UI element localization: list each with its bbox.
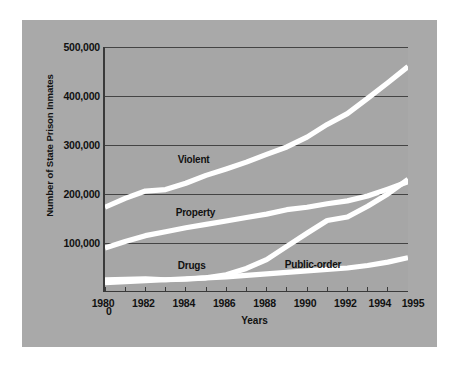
x-axis-title: Years — [103, 315, 406, 326]
y-tick-label: 500,000 — [63, 41, 100, 53]
series-label-violent: Violent — [178, 154, 210, 165]
x-tick-label: 1984 — [173, 297, 196, 309]
x-tick-label: 1994 — [369, 297, 392, 309]
x-tick-label: 1990 — [294, 297, 317, 309]
x-tick-label: 1988 — [253, 297, 276, 309]
gridlines — [105, 47, 408, 292]
series-line-public-order — [105, 258, 408, 280]
chart-canvas — [105, 47, 408, 292]
figure-root: Number of State Prison Inmates 0 100,000… — [0, 0, 460, 366]
x-tick-label: 1992 — [334, 297, 357, 309]
plot-area: ViolentPropertyDrugsPublic-order — [103, 47, 408, 292]
series-label-drugs: Drugs — [178, 260, 206, 271]
y-tick-label: 400,000 — [63, 90, 100, 102]
y-axis-tick-labels: 100,000200,000300,000400,000500,000 — [22, 47, 100, 292]
x-tick-label: 1995 — [402, 297, 425, 309]
series-label-property: Property — [176, 207, 216, 218]
y-tick-label: 300,000 — [63, 139, 100, 151]
x-tick-label: 1986 — [213, 297, 236, 309]
y-tick-label: 100,000 — [63, 237, 100, 249]
x-tick-label: 1982 — [132, 297, 155, 309]
x-tick-label: 1980 — [92, 297, 115, 309]
x-axis-tick-labels: 198019821984198619881990199219941995 — [103, 297, 406, 313]
series-lines — [105, 67, 408, 283]
series-label-public-order: Public-order — [285, 259, 342, 270]
y-tick-label: 200,000 — [63, 188, 100, 200]
series-line-violent — [105, 67, 408, 208]
